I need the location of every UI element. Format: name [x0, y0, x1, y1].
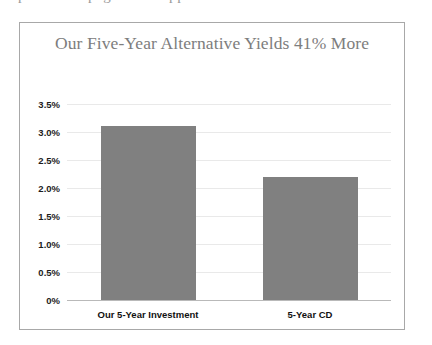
x-axis-category-label: Our 5-Year Investment: [98, 309, 199, 320]
clipped-page-text-strip: portion of page text clipped above the c…: [0, 0, 432, 14]
x-axis-category-label: 5-Year CD: [288, 309, 333, 320]
y-axis-tick-label: 3.0%: [38, 127, 60, 138]
clipped-page-text: portion of page text clipped above the c…: [18, 0, 418, 4]
y-axis-tick-label: 0.5%: [38, 267, 60, 278]
y-axis-tick-label: 3.5%: [38, 99, 60, 110]
y-axis-tick-label: 2.5%: [38, 155, 60, 166]
gridline: [67, 104, 391, 105]
y-axis-tick-label: 1.5%: [38, 211, 60, 222]
chart-title: Our Five-Year Alternative Yields 41% Mor…: [20, 33, 404, 54]
y-axis-tick-label: 0%: [46, 295, 60, 306]
axis-baseline: [67, 300, 391, 301]
bar: [263, 177, 358, 300]
bar: [101, 126, 196, 300]
y-axis-tick-label: 1.0%: [38, 239, 60, 250]
chart-frame: Our Five-Year Alternative Yields 41% Mor…: [19, 22, 405, 330]
plot-area: 3.5%3.0%2.5%2.0%1.5%1.0%0.5%0%Our 5-Year…: [67, 104, 391, 300]
y-axis-tick-label: 2.0%: [38, 183, 60, 194]
